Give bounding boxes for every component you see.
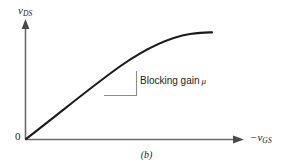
x-axis-subscript: GS [262,136,272,145]
y-axis-subscript: DS [23,9,33,18]
figure-container: vDS −vGS 0 Blocking gainμ (b) [0,0,293,168]
x-axis-label: −vGS [250,132,272,143]
figure-caption: (b) [0,150,293,160]
mu-symbol: μ [199,76,206,86]
y-axis-label: vDS [18,5,32,16]
slope-gain-annotation: Blocking gainμ [140,76,206,86]
x-axis-arrowhead [233,135,244,143]
slope-gain-text: Blocking gain [140,75,199,86]
origin-label: 0 [15,131,21,142]
y-axis-arrowhead [22,19,30,29]
